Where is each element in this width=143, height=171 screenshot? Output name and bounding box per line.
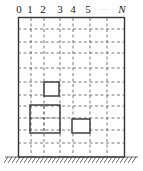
column-label-1: 1 <box>27 3 33 15</box>
grid-lines <box>18 18 124 156</box>
upper-small-window <box>44 82 59 96</box>
column-label-ellipsis: ··· <box>101 6 108 14</box>
column-label-2: 2 <box>40 3 46 15</box>
column-label-3: 3 <box>57 3 63 15</box>
building-grid-diagram: 0 1 2 3 4 5 ··· N <box>0 0 143 171</box>
column-label-4: 4 <box>70 3 76 15</box>
ground-hatching <box>4 157 136 163</box>
column-label-n: N <box>117 3 126 15</box>
column-label-0: 0 <box>16 3 22 15</box>
lower-small-window <box>72 119 90 133</box>
large-window-grid <box>31 106 59 132</box>
column-label-5: 5 <box>85 3 91 15</box>
ground <box>4 157 138 163</box>
large-window <box>30 105 60 133</box>
column-labels: 0 1 2 3 4 5 ··· N <box>16 3 126 15</box>
building-outline <box>19 18 125 158</box>
